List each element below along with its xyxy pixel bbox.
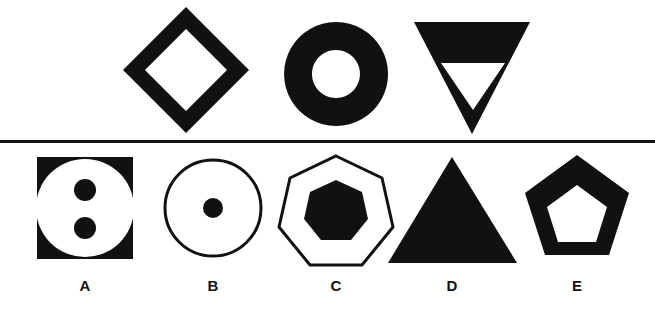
annulus-donut-figure (284, 22, 388, 126)
option-d-figure[interactable] (388, 157, 517, 263)
circle-hole-icon (36, 159, 134, 257)
annulus-donut-icon (284, 22, 388, 126)
diamond-outline-icon (123, 7, 249, 133)
pentagon-outline-icon (525, 155, 629, 255)
dot-upper-icon (74, 179, 96, 201)
option-label-b: B (193, 277, 233, 295)
option-label-a: A (65, 277, 105, 295)
dot-lower-icon (74, 217, 96, 239)
puzzle-sheet: A B C D E (0, 0, 655, 309)
heptagon-filled-icon (304, 180, 368, 240)
horizontal-rule (0, 140, 655, 143)
option-label-e: E (557, 277, 597, 295)
option-e-figure[interactable] (525, 155, 629, 255)
option-label-c: C (316, 277, 356, 295)
diamond-outline-figure (123, 7, 249, 133)
option-b-figure[interactable] (165, 160, 261, 256)
option-label-d: D (432, 277, 472, 295)
figure-canvas (0, 0, 655, 309)
option-c-figure[interactable] (279, 156, 393, 265)
inverted-triangle-figure (414, 22, 530, 134)
inverted-triangle-outline-icon (414, 22, 530, 134)
triangle-filled-icon (388, 157, 517, 263)
dot-center-icon (203, 198, 223, 218)
option-a-figure[interactable] (36, 157, 134, 259)
